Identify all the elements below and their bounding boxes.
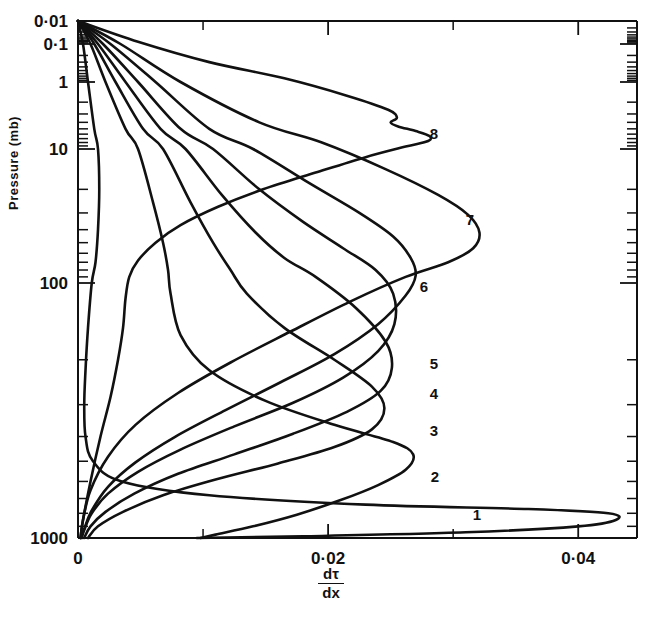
figure-container: Pressure (mb) 0·010·11101001000 00·020·0… xyxy=(0,0,655,618)
y-tick-label: 1 xyxy=(59,73,68,92)
y-axis-title: Pressure (mb) xyxy=(6,90,21,210)
curve-label-5: 5 xyxy=(430,355,438,372)
curve-label-8: 8 xyxy=(430,125,438,142)
curve-label-2: 2 xyxy=(431,468,439,485)
curve-8 xyxy=(78,21,431,538)
curve-group xyxy=(78,21,619,538)
curve-label-1: 1 xyxy=(473,506,481,523)
curve-label-6: 6 xyxy=(420,278,428,295)
curve-labels: 12345678 xyxy=(420,125,481,523)
y-tick-labels: 0·010·11101001000 xyxy=(30,12,68,548)
y-tick-label: 0·01 xyxy=(34,12,68,31)
curve-label-7: 7 xyxy=(466,211,474,228)
chart-canvas: 0·010·11101001000 00·020·04 12345678 xyxy=(0,0,655,618)
x-axis-title: dτ dx xyxy=(296,566,366,601)
x-tick-label: 0·04 xyxy=(561,549,596,568)
y-tick-label: 100 xyxy=(40,274,68,293)
y-tick-label: 1000 xyxy=(30,529,68,548)
x-axis-title-numerator: dτ xyxy=(296,566,366,582)
x-axis-title-denominator: dx xyxy=(296,585,366,601)
curve-label-3: 3 xyxy=(430,422,438,439)
x-tick-label: 0 xyxy=(73,549,82,568)
curve-label-4: 4 xyxy=(430,385,439,402)
y-tick-label: 0·1 xyxy=(43,35,68,54)
x-axis-ticks xyxy=(203,21,578,538)
curve-3 xyxy=(78,21,384,538)
y-tick-label: 10 xyxy=(49,140,68,159)
